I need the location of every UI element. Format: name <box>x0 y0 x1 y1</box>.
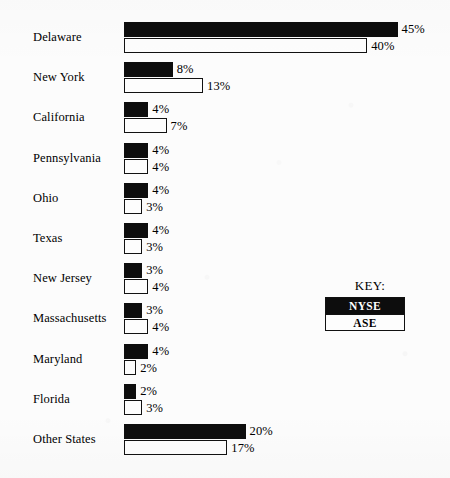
bar-nyse <box>124 303 142 318</box>
bar-value-nyse: 3% <box>146 263 163 277</box>
bar-ase <box>124 159 148 174</box>
bar-ase <box>124 279 148 294</box>
legend-title: KEY: <box>325 278 409 293</box>
category-label: Delaware <box>33 30 82 44</box>
chart-row: Maryland4%2% <box>0 344 450 380</box>
category-label: Maryland <box>33 352 82 366</box>
bar-value-nyse: 20% <box>250 424 273 438</box>
chart-row: Other States20%17% <box>0 424 450 460</box>
bar-nyse <box>124 344 148 359</box>
legend-item-ase: ASE <box>326 314 404 330</box>
bar-nyse <box>124 102 148 117</box>
bar-ase <box>124 239 142 254</box>
bar-value-nyse: 4% <box>152 223 169 237</box>
chart-row: Pennsylvania4%4% <box>0 143 450 179</box>
bar-ase <box>124 319 148 334</box>
chart-row: Delaware45%40% <box>0 22 450 58</box>
bar-value-ase: 3% <box>146 240 163 254</box>
category-label: Ohio <box>33 191 58 205</box>
category-label: Pennsylvania <box>33 151 101 165</box>
category-label: Texas <box>33 231 62 245</box>
legend-item-nyse: NYSE <box>326 298 404 314</box>
bar-nyse <box>124 424 246 439</box>
chart-row: Ohio4%3% <box>0 183 450 219</box>
bar-nyse <box>124 22 398 37</box>
bar-value-nyse: 8% <box>177 62 194 76</box>
bar-value-ase: 17% <box>231 441 254 455</box>
category-label: Massachusetts <box>33 311 107 325</box>
category-label: New York <box>33 70 85 84</box>
bar-value-nyse: 4% <box>152 344 169 358</box>
bar-ase <box>124 38 367 53</box>
bar-value-ase: 4% <box>152 160 169 174</box>
bar-value-ase: 4% <box>152 320 169 334</box>
bar-ase <box>124 360 136 375</box>
bar-value-nyse: 4% <box>152 183 169 197</box>
bar-value-ase: 40% <box>371 39 394 53</box>
bar-value-ase: 4% <box>152 280 169 294</box>
chart-legend: KEY: NYSE ASE <box>325 278 409 331</box>
category-label: Other States <box>33 432 96 446</box>
bar-ase <box>124 400 142 415</box>
bar-nyse <box>124 143 148 158</box>
chart-row: Florida2%3% <box>0 384 450 420</box>
bar-nyse <box>124 263 142 278</box>
category-label: California <box>33 110 85 124</box>
bar-value-nyse: 4% <box>152 102 169 116</box>
chart-row: New York8%13% <box>0 62 450 98</box>
chart-row: California4%7% <box>0 102 450 138</box>
bar-nyse <box>124 223 148 238</box>
bar-value-ase: 13% <box>207 79 230 93</box>
bar-nyse <box>124 183 148 198</box>
bar-ase <box>124 440 227 455</box>
chart-row: Texas4%3% <box>0 223 450 259</box>
bar-value-ase: 7% <box>171 119 188 133</box>
bar-nyse <box>124 62 173 77</box>
bar-value-nyse: 45% <box>402 22 425 36</box>
bar-value-nyse: 4% <box>152 143 169 157</box>
chart-canvas: Delaware45%40%New York8%13%California4%7… <box>0 0 450 478</box>
bar-value-nyse: 2% <box>140 384 157 398</box>
category-label: New Jersey <box>33 271 92 285</box>
grouped-bar-chart: Delaware45%40%New York8%13%California4%7… <box>0 0 450 478</box>
legend-box: NYSE ASE <box>325 297 405 331</box>
bar-nyse <box>124 384 136 399</box>
bar-ase <box>124 199 142 214</box>
bar-ase <box>124 78 203 93</box>
category-label: Florida <box>33 392 70 406</box>
bar-value-ase: 3% <box>146 401 163 415</box>
bar-value-ase: 3% <box>146 200 163 214</box>
bar-ase <box>124 118 167 133</box>
bar-value-nyse: 3% <box>146 303 163 317</box>
bar-value-ase: 2% <box>140 361 157 375</box>
